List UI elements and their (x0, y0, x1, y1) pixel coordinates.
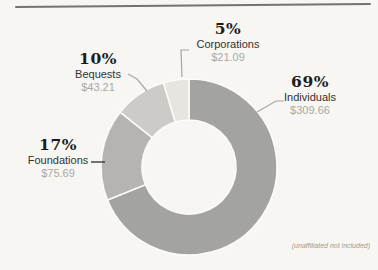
foundations-amount: $75.69 (19, 167, 97, 180)
corporations-label: Corporations (185, 38, 271, 51)
individuals-percent: 69% (271, 73, 349, 91)
callout-foundations: 17% Foundations $75.69 (19, 136, 97, 180)
callout-corporations: 5% Corporations $21.09 (185, 20, 271, 64)
individuals-label: Individuals (271, 91, 349, 104)
donut-segments (101, 79, 277, 255)
individuals-amount: $309.66 (271, 104, 349, 117)
corporations-percent: 5% (185, 20, 271, 38)
footnote: (unaffiliated not included) (292, 242, 370, 249)
bequests-label: Bequests (60, 68, 136, 81)
foundations-label: Foundations (19, 154, 97, 167)
scanned-report-page: 5% Corporations $21.09 69% Individuals $… (0, 0, 378, 270)
callout-individuals: 69% Individuals $309.66 (271, 73, 349, 117)
callout-bequests: 10% Bequests $43.21 (60, 50, 136, 94)
foundations-percent: 17% (19, 136, 97, 154)
bequests-amount: $43.21 (60, 81, 136, 94)
bequests-percent: 10% (60, 50, 136, 68)
corporations-amount: $21.09 (185, 51, 271, 64)
